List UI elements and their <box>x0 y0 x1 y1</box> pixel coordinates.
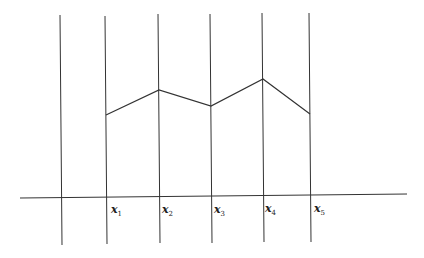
vertical-line-x4 <box>262 13 264 242</box>
label-x4: x4 <box>265 202 276 217</box>
label-x5: x5 <box>314 202 325 217</box>
label-subscript: 2 <box>169 210 173 218</box>
horizontal-axis <box>20 194 407 198</box>
label-x1: x1 <box>111 203 122 218</box>
label-x3: x3 <box>214 203 225 218</box>
piecewise-linear-curve <box>106 79 310 115</box>
label-subscript: 4 <box>272 209 276 217</box>
vertical-line-x5 <box>309 13 311 242</box>
vertical-line-0 <box>60 15 62 245</box>
diagram-canvas <box>0 0 424 258</box>
label-x2: x2 <box>162 203 173 218</box>
vertical-line-x2 <box>158 14 160 243</box>
vertical-line-x1 <box>105 16 107 244</box>
vertical-line-x3 <box>210 14 212 243</box>
label-subscript: 5 <box>321 209 325 217</box>
label-subscript: 3 <box>221 210 225 218</box>
label-subscript: 1 <box>118 210 122 218</box>
